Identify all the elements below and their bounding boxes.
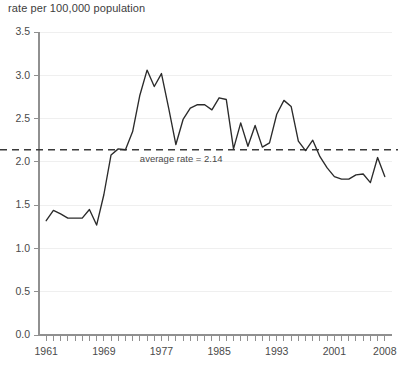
x-tick-label: 2008 [373,345,397,357]
x-tick-label: 1985 [207,345,231,357]
y-axis-ticks [34,32,39,335]
y-tick-label: 0.0 [15,328,30,340]
x-axis-tick-labels: 1961196919771985199320012008 [35,345,397,357]
chart-figure: rate per 100,000 population average rate… [0,0,398,375]
y-axis-tick-labels: 0.00.51.01.52.02.53.03.5 [15,25,30,340]
x-axis-ticks [46,335,385,341]
series-line-rate [46,70,385,225]
y-tick-label: 2.5 [15,112,30,124]
x-tick-label: 1961 [35,345,59,357]
y-tick-label: 3.5 [15,25,30,37]
axis-lines [39,32,392,335]
y-tick-label: 2.0 [15,155,30,167]
x-tick-label: 1977 [150,345,174,357]
average-rate-label: average rate = 2.14 [140,153,223,164]
line-chart-plot: average rate = 2.14 0.00.51.01.52.02.53.… [0,0,398,375]
x-tick-label: 1969 [92,345,116,357]
x-tick-label: 1993 [265,345,289,357]
y-tick-label: 1.0 [15,242,30,254]
y-tick-label: 1.5 [15,198,30,210]
data-series [46,70,385,225]
x-tick-label: 2001 [323,345,347,357]
y-tick-label: 0.5 [15,285,30,297]
y-tick-label: 3.0 [15,69,30,81]
